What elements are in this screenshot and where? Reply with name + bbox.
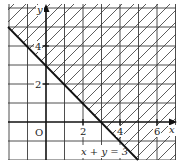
boundary-line-label: x + y = 3 bbox=[81, 146, 128, 157]
origin-label: O bbox=[35, 127, 43, 138]
x-tick-label-6: 6 bbox=[154, 126, 160, 137]
y-axis-label: y bbox=[36, 4, 43, 15]
x-tick-label-4: 4 bbox=[117, 126, 123, 137]
inequality-graph: O 2 4 6 2 4 x y x + y = 3 bbox=[0, 0, 178, 166]
x-axis-label: x bbox=[169, 124, 175, 135]
y-tick-label-4: 4 bbox=[35, 41, 41, 52]
x-tick-label-2: 2 bbox=[80, 126, 86, 137]
y-tick-label-2: 2 bbox=[35, 79, 41, 90]
